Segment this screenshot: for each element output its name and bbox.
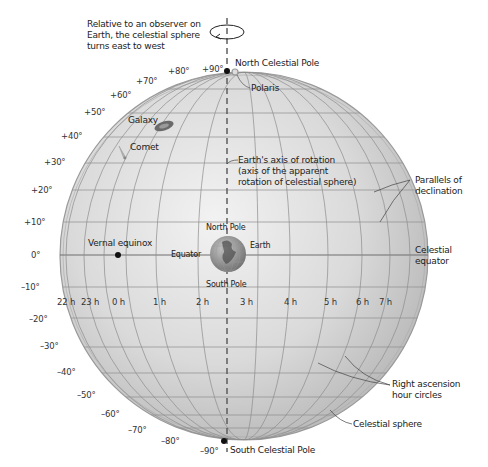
earth-axis-line: Earth's axis of rotation [238, 155, 356, 166]
north-pole-label: North Pole [206, 223, 246, 233]
ra-label-5h: 5 h [324, 297, 337, 308]
dec-label-plus10: +10° [24, 217, 45, 228]
south-celestial-pole-dot [221, 438, 227, 444]
dec-label-plus50: +50° [84, 107, 105, 118]
dec-label-plus40: +40° [61, 131, 82, 142]
ra-label-22h: 22 h [57, 297, 75, 308]
vernal-equinox-dot [115, 252, 121, 258]
ra-label-2h: 2 h [196, 297, 209, 308]
south-pole-label: South Pole [206, 280, 246, 290]
ra-label-1h: 1 h [153, 297, 166, 308]
parallels-label: Parallels of declination [415, 175, 462, 197]
celestial-sphere-label: Celestial sphere [353, 419, 422, 430]
equator-label: Equator [171, 250, 201, 260]
ra-label-7h: 7 h [379, 297, 392, 308]
parallels-line: declination [415, 186, 462, 197]
polaris-label: Polaris [251, 83, 279, 94]
parallels-line: Parallels of [415, 175, 462, 186]
dec-label-plus90: +90° [202, 64, 223, 75]
north-celestial-pole-label: North Celestial Pole [235, 58, 319, 69]
dec-label-minus50: –50° [77, 390, 96, 401]
celestial-equator-label: Celestial equator [415, 245, 452, 267]
earth-axis-line: (axis of the apparent [238, 166, 356, 177]
rotation-note-line: Earth, the celestial sphere [87, 30, 201, 41]
north-celestial-pole-dot [224, 68, 230, 74]
south-celestial-pole-label: South Celestial Pole [230, 445, 315, 456]
earth-axis-label: Earth's axis of rotation (axis of the ap… [238, 155, 356, 188]
dec-label-plus60: +60° [110, 90, 131, 101]
dec-label-minus70: –70° [128, 425, 147, 436]
earth-label: Earth [250, 241, 270, 251]
ra-label-6h: 6 h [356, 297, 369, 308]
right-ascension-line: hour circles [392, 390, 460, 401]
dec-label-0: 0° [31, 250, 40, 261]
rotation-note-line: turns east to west [87, 41, 201, 52]
right-ascension-label: Right ascension hour circles [392, 379, 460, 401]
ra-label-4h: 4 h [284, 297, 297, 308]
dec-label-minus10: –10° [21, 282, 40, 293]
comet-label: Comet [130, 142, 159, 153]
celestial-equator-line-text: Celestial [415, 245, 452, 256]
dec-label-minus60: –60° [101, 409, 120, 420]
right-ascension-line: Right ascension [392, 379, 460, 390]
galaxy-label: Galaxy [128, 115, 158, 126]
ra-label-3h: 3 h [240, 297, 253, 308]
dec-label-minus30: –30° [40, 341, 59, 352]
vernal-equinox-label: Vernal equinox [88, 238, 152, 249]
rotation-note: Relative to an observer on Earth, the ce… [87, 19, 201, 52]
dec-label-plus80: +80° [168, 66, 189, 77]
dec-label-minus90: –90° [200, 446, 219, 457]
dec-label-minus20: –20° [29, 314, 48, 325]
polaris-star-icon [232, 69, 238, 75]
dec-label-minus80: –80° [161, 436, 180, 447]
dec-label-plus30: +30° [44, 157, 65, 168]
ra-label-23h: 23 h [81, 297, 99, 308]
dec-label-plus20: +20° [31, 185, 52, 196]
earth-globe-icon [210, 236, 246, 272]
dec-label-plus70: +70° [136, 76, 157, 87]
ra-label-0h: 0 h [112, 297, 125, 308]
earth-axis-line: rotation of celestial sphere) [238, 177, 356, 188]
rotation-note-line: Relative to an observer on [87, 19, 201, 30]
celestial-equator-line-text: equator [415, 256, 452, 267]
dec-label-minus40: –40° [57, 367, 76, 378]
